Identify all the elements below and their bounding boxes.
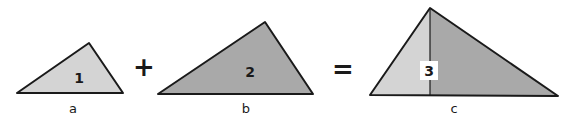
triangle-1: 1 a <box>17 43 123 116</box>
triangle-2-base-label: b <box>242 101 250 116</box>
triangle-1-base-label: a <box>69 101 77 116</box>
triangle-2-shape <box>158 22 313 94</box>
triangle-3-label: 3 <box>424 63 434 79</box>
plus-operator: + <box>133 52 155 82</box>
triangle-area-diagram: 1 a + 2 b = 3 c <box>0 0 571 121</box>
triangle-2: 2 b <box>158 22 313 116</box>
triangle-3-base-label: c <box>450 101 457 116</box>
equals-operator: = <box>332 54 354 84</box>
triangle-1-shape <box>17 43 123 93</box>
triangle-2-label: 2 <box>245 64 255 80</box>
triangle-1-label: 1 <box>74 70 84 86</box>
triangle-3: 3 c <box>370 8 558 116</box>
